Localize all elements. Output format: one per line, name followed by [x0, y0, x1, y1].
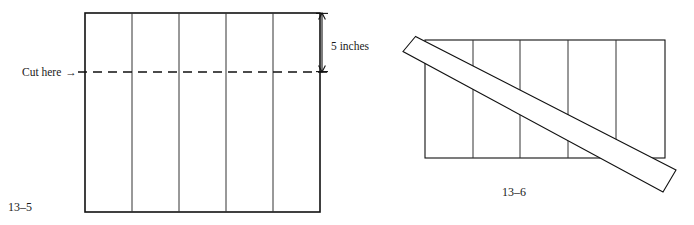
figure-plate: Cut here → 5 inches 13–5 13–6	[0, 0, 694, 225]
cut-here-label: Cut here	[22, 66, 61, 78]
figure-caption-13-6: 13–6	[502, 185, 526, 199]
cut-here-arrow-icon: →	[65, 66, 77, 78]
figure-caption-13-5: 13–5	[8, 200, 32, 214]
dimension-label-5-inches: 5 inches	[331, 40, 370, 52]
figure-text-layer: Cut here → 5 inches 13–5 13–6	[0, 0, 694, 225]
